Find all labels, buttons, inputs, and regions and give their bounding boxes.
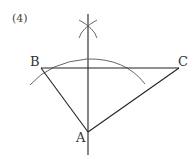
side-AC [88,68,179,132]
side-AB [41,68,88,132]
label-A: A [75,130,86,145]
problem-number: (4) [12,12,28,25]
label-C: C [178,54,188,69]
label-B: B [30,54,40,69]
construction-diagram: (4) B C A [0,0,196,167]
